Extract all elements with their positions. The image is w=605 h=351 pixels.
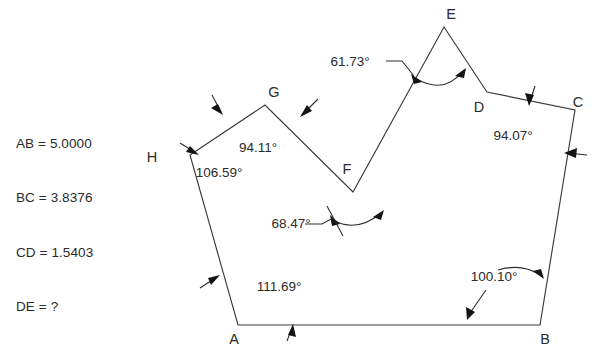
angle-label-e: 61.73° — [330, 54, 369, 69]
angle-arc-e-arrow-left — [411, 74, 422, 84]
angle-arc-f — [333, 214, 380, 225]
angle-arc-e — [415, 72, 462, 85]
angle-leader-b — [470, 290, 486, 313]
angle-label-g: 94.11° — [239, 140, 277, 155]
vertex-label-h: H — [147, 149, 157, 165]
edge-tick-bc-arrow — [564, 148, 577, 158]
angle-label-b: 100.10° — [471, 269, 518, 284]
diagram-canvas: AB = 5.0000 BC = 3.8376 CD = 1.5403 DE =… — [0, 0, 605, 351]
vertex-label-b: B — [540, 331, 550, 347]
angle-arc-b-arrow — [533, 269, 544, 279]
vertex-label-f: F — [343, 161, 352, 177]
edge-tick-ah-lower-arrow — [208, 275, 220, 285]
vertex-label-d: D — [474, 99, 484, 115]
vertex-label-c: C — [573, 94, 583, 110]
angle-arc-e-arrow-right — [455, 68, 466, 78]
angle-leader-b-arrow — [466, 307, 475, 320]
edge-tick-gh-arrow — [211, 104, 223, 115]
angle-label-a: 111.69° — [257, 279, 302, 294]
edge-tick-ab-arrow — [288, 324, 296, 337]
angle-label-h: 106.59° — [196, 165, 243, 180]
vertex-label-a: A — [229, 331, 239, 347]
angle-label-f: 68.47° — [271, 216, 310, 231]
angle-leader-e — [386, 61, 414, 76]
polygon-figure: A B C D E F G H 61.73° 94.07° 94.11° 106… — [0, 0, 605, 351]
angle-ref-line-f — [327, 206, 343, 236]
angle-label-c: 94.07° — [493, 128, 532, 143]
vertex-label-e: E — [446, 6, 456, 22]
vertex-label-g: G — [268, 84, 279, 100]
